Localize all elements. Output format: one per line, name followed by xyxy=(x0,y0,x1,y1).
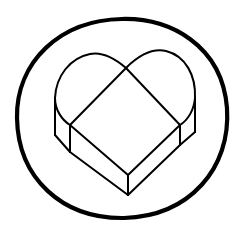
bottom-left-front xyxy=(70,152,128,195)
lid-front-right xyxy=(128,125,180,175)
lid-diagonal-left xyxy=(70,68,126,125)
bottom-right-front xyxy=(128,145,180,195)
heart-box-illustration: heart-shaped box inside a circle xyxy=(0,0,240,232)
heart-box-drawing xyxy=(0,0,240,232)
lid-diagonal-right xyxy=(126,68,180,125)
heart-top-outline xyxy=(55,54,126,125)
bottom-right-side xyxy=(180,132,195,145)
lid-front-left xyxy=(70,125,128,175)
heart-top-outline-right xyxy=(126,50,195,125)
bottom-left-side xyxy=(55,135,70,152)
